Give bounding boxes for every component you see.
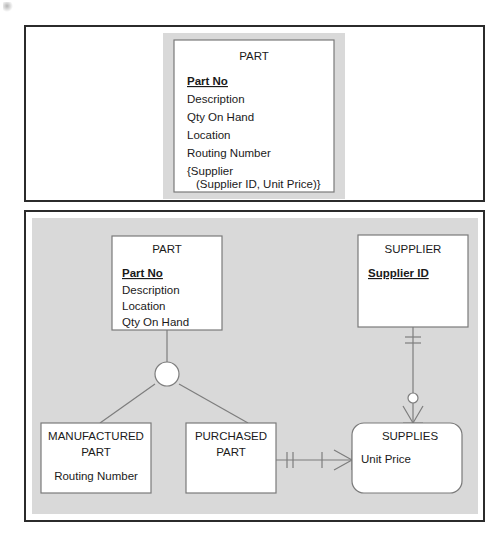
entity-primary-key: Supplier ID [368,267,429,279]
entity-attribute: Routing Number [187,147,271,159]
entity-title: SUPPLIER [385,243,442,255]
entity-part-unnormalized[interactable]: PART Part No Description Qty On Hand Loc… [174,40,334,192]
entity-attribute: (Supplier ID, Unit Price)} [196,178,321,190]
entity-attribute: Qty On Hand [187,111,254,123]
entity-title: PART [152,243,182,255]
figure-canvas: PART Part No Description Qty On Hand Loc… [0,0,504,537]
entity-primary-key: Part No [187,75,228,87]
entity-supplier[interactable]: SUPPLIER Supplier ID [358,235,468,327]
subtype-discriminator-circle[interactable] [155,362,179,386]
entity-primary-key: Part No [122,267,163,279]
er-diagram-svg: PART Part No Description Qty On Hand Loc… [0,0,504,537]
cardinality-circle-optional [408,393,418,403]
entity-title-line1: PURCHASED [195,430,267,442]
entity-supplies[interactable]: SUPPLIES Unit Price [352,423,462,493]
entity-attribute: Location [187,129,230,141]
entity-attribute: Description [122,284,180,296]
entity-attribute: Unit Price [361,453,411,465]
scan-artifact [3,2,13,12]
entity-attribute: Routing Number [54,470,138,482]
bottom-panel: PART Part No Description Location Qty On… [25,211,484,521]
entity-attribute: Location [122,300,165,312]
entity-part[interactable]: PART Part No Description Location Qty On… [112,236,222,330]
entity-manufactured-part[interactable]: MANUFACTURED PART Routing Number [41,423,151,493]
entity-purchased-part[interactable]: PURCHASED PART [186,423,276,493]
entity-title-line1: MANUFACTURED [48,430,144,442]
top-panel: PART Part No Description Qty On Hand Loc… [25,26,484,201]
entity-attribute: Qty On Hand [122,316,189,328]
entity-title-line2: PART [81,446,111,458]
entity-attribute: Description [187,93,245,105]
entity-title: PART [239,50,269,62]
entity-title-line2: PART [216,446,246,458]
entity-attribute: {Supplier [187,165,233,177]
entity-title: SUPPLIES [382,430,439,442]
